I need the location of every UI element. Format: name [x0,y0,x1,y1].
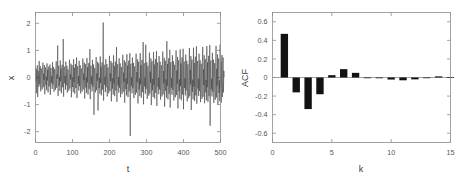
y-tick-label: 0.6 [258,17,268,26]
acf-bar-group [281,34,454,109]
y-tick-label: -0.6 [255,129,267,138]
acf-bar [304,78,311,110]
x-tick-label: 0 [271,148,275,157]
timeseries-x-tick-labels: 0100200300400500 [34,148,227,157]
acf-plot: 051015 -0.6-0.4-0.200.20.40.6 k ACF [235,0,469,180]
y-tick-label: -0.2 [255,92,267,101]
timeseries-chart-panel: 0100200300400500 -2-1012 t x [0,0,235,180]
acf-bar [352,73,359,78]
acf-bar [293,78,300,93]
y-tick-label: -1 [24,100,30,109]
figure-panel-pair: 0100200300400500 -2-1012 t x 051015 -0.6… [0,0,469,180]
timeseries-y-tick-labels: -2-1012 [24,19,30,136]
y-tick-label: 1 [27,46,31,55]
y-tick-label: 0 [27,73,31,82]
timeseries-y-axis-label: x [6,75,16,80]
acf-bar [376,78,383,79]
acf-bar [364,78,371,79]
acf-bar [328,75,335,77]
y-tick-label: -0.4 [255,110,267,119]
acf-y-axis-label: ACF [240,68,250,87]
acf-bar [281,34,288,78]
x-tick-label: 100 [67,148,79,157]
acf-bar [316,78,323,95]
x-tick-label: 15 [447,148,455,157]
acf-x-axis-label: k [359,164,364,174]
acf-bar [399,78,406,81]
acf-bar [340,69,347,77]
x-tick-label: 500 [215,148,227,157]
acf-x-tick-labels: 051015 [271,148,455,157]
acf-bar [423,78,430,79]
y-tick-label: 0.2 [258,55,268,64]
y-tick-label: 0.4 [258,36,268,45]
x-tick-label: 200 [104,148,116,157]
timeseries-plot: 0100200300400500 -2-1012 t x [0,0,235,180]
y-tick-label: 0 [264,73,268,82]
x-tick-label: 400 [178,148,190,157]
x-tick-label: 300 [141,148,153,157]
y-tick-label: 2 [27,19,31,28]
acf-bar [411,78,418,80]
acf-bar [387,78,394,80]
timeseries-x-axis-label: t [127,164,130,174]
x-tick-label: 0 [34,148,38,157]
acf-bar [435,76,442,77]
y-tick-label: -2 [24,127,30,136]
acf-chart-panel: 051015 -0.6-0.4-0.200.20.40.6 k ACF [235,0,469,180]
x-tick-label: 10 [387,148,395,157]
x-tick-label: 5 [330,148,334,157]
acf-y-tick-labels: -0.6-0.4-0.200.20.40.6 [255,17,267,137]
timeseries-line [36,23,225,136]
